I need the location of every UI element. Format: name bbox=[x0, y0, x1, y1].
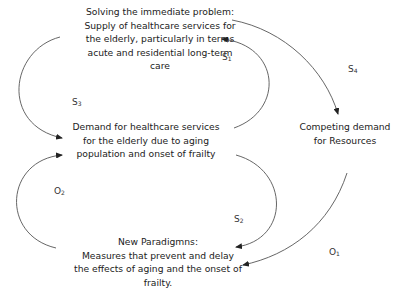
node-demand: Demand for healthcare services for the e… bbox=[62, 120, 230, 161]
label-o1: O1 bbox=[329, 247, 340, 257]
node-line: Measures that prevent and delay bbox=[68, 249, 248, 263]
node-line: New Paradigmns: bbox=[68, 235, 248, 249]
node-line: Competing demand bbox=[290, 120, 400, 134]
label-o2: O2 bbox=[54, 186, 65, 196]
node-immediate-problem: Solving the immediate problem: Supply of… bbox=[60, 5, 260, 73]
arrow-s2 bbox=[236, 155, 277, 247]
arrow-o2 bbox=[17, 155, 62, 248]
node-line: Demand for healthcare services bbox=[62, 120, 230, 134]
node-line: for Resources bbox=[290, 134, 400, 148]
node-line: the elderly, particularly in terms bbox=[60, 32, 260, 46]
arrow-s3 bbox=[19, 37, 62, 138]
node-line: the effects of aging and the onset of bbox=[68, 262, 248, 276]
label-s2: S2 bbox=[234, 214, 244, 224]
node-competing-demand: Competing demand for Resources bbox=[290, 120, 400, 147]
label-s3: S3 bbox=[72, 97, 82, 107]
node-line: frailty. bbox=[68, 276, 248, 290]
label-s4: S4 bbox=[348, 64, 358, 74]
node-line: Supply of healthcare services for bbox=[60, 19, 260, 33]
node-line: for the elderly due to aging bbox=[62, 134, 230, 148]
node-line: population and onset of frailty bbox=[62, 147, 230, 161]
label-s1: S1 bbox=[222, 52, 232, 62]
node-line: Solving the immediate problem: bbox=[60, 5, 260, 19]
node-new-paradigms: New Paradigmns: Measures that prevent an… bbox=[68, 235, 248, 289]
